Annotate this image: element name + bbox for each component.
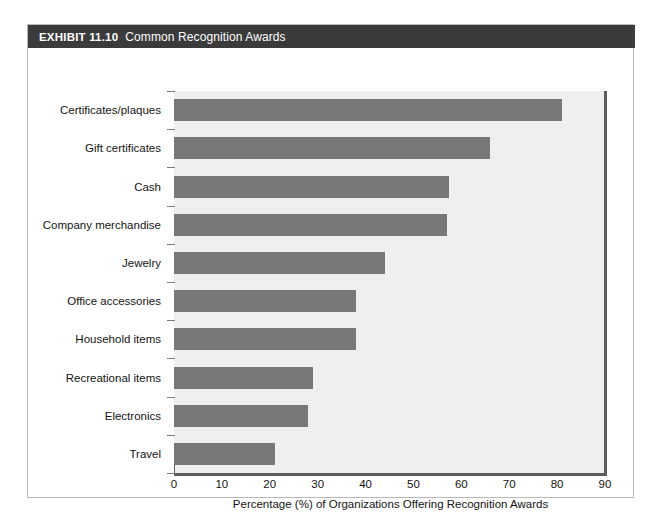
y-axis-line [604,91,607,473]
category-label: Travel [0,448,161,460]
category-label: Household items [0,333,161,345]
bar-certificates-plaques [174,99,562,121]
category-label: Office accessories [0,295,161,307]
x-axis-line [174,473,607,476]
y-axis-tick [167,397,175,398]
exhibit-header: EXHIBIT 11.10 Common Recognition Awards [28,25,635,48]
bar-household-items [174,328,356,350]
bar-jewelry [174,252,385,274]
exhibit-number: EXHIBIT 11.10 [39,31,118,43]
category-label: Gift certificates [0,142,161,154]
x-tick-label: 10 [202,478,242,490]
x-tick-label: 20 [250,478,290,490]
category-label: Electronics [0,410,161,422]
exhibit-frame: EXHIBIT 11.10 Common Recognition Awards … [27,24,634,498]
y-axis-tick [167,244,175,245]
x-tick-label: 50 [393,478,433,490]
bar-chart: Certificates/plaquesGift certificatesCas… [28,48,633,497]
x-tick-label: 30 [298,478,338,490]
category-label: Certificates/plaques [0,104,161,116]
bar-electronics [174,405,308,427]
y-axis-tick [167,473,175,474]
y-axis-tick [167,206,175,207]
bar-gift-certificates [174,137,490,159]
x-tick-label: 70 [489,478,529,490]
bar-recreational-items [174,367,313,389]
y-axis-tick [167,320,175,321]
y-axis-tick [167,282,175,283]
x-tick-label: 80 [537,478,577,490]
x-tick-label: 90 [585,478,625,490]
category-label: Company merchandise [0,219,161,231]
y-axis-tick [167,167,175,168]
x-axis-label: Percentage (%) of Organizations Offering… [174,498,607,510]
category-label: Jewelry [0,257,161,269]
exhibit-title: Common Recognition Awards [125,30,285,44]
category-label: Cash [0,181,161,193]
y-axis-tick [167,129,175,130]
category-label: Recreational items [0,372,161,384]
bar-company-merchandise [174,214,447,236]
y-axis-tick [167,358,175,359]
x-tick-label: 0 [154,478,194,490]
bar-office-accessories [174,290,356,312]
x-tick-label: 60 [441,478,481,490]
y-axis-tick [167,91,175,92]
bar-cash [174,176,449,198]
y-axis-tick [167,435,175,436]
x-tick-label: 40 [346,478,386,490]
bar-travel [174,443,275,465]
